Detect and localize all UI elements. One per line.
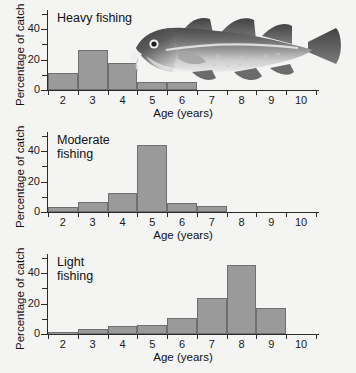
x-axis-tick [48, 212, 49, 217]
x-axis-tick-label: 4 [114, 95, 130, 106]
y-axis-tick-label: 0 [34, 328, 40, 339]
histogram-bar [78, 329, 108, 334]
x-axis-tick [227, 334, 228, 339]
x-axis-tick [316, 334, 317, 339]
y-axis-tick-label: 0 [34, 206, 40, 217]
histogram-bar [48, 332, 78, 334]
x-axis-tick-label: 6 [174, 95, 190, 106]
x-axis-tick [48, 90, 49, 95]
x-axis-tick-label: 4 [114, 339, 130, 350]
x-axis-tick [286, 212, 287, 217]
y-axis-tick-label: 20 [28, 54, 40, 65]
histogram-bar [197, 206, 227, 212]
x-axis-tick-label: 5 [144, 217, 160, 228]
x-axis-tick [227, 90, 228, 95]
x-axis-tick [256, 212, 257, 217]
y-axis-label: Percentage of catch [14, 128, 26, 228]
x-axis-label: Age (years) [47, 107, 319, 119]
x-axis-tick-label: 8 [234, 217, 250, 228]
x-axis-tick [197, 212, 198, 217]
y-axis-tick-major [41, 60, 47, 61]
y-axis-label: Percentage of catch [14, 6, 26, 106]
y-axis-tick-label: 40 [28, 23, 40, 34]
histogram-bar [167, 203, 197, 212]
x-axis-tick [286, 334, 287, 339]
x-axis-tick-label: 10 [293, 339, 309, 350]
x-axis-line [47, 90, 319, 91]
x-axis-tick [78, 212, 79, 217]
x-axis-tick [227, 212, 228, 217]
x-axis-tick-label: 7 [204, 217, 220, 228]
panel-heavy-fishing: Percentage of catch Heavy fishing Age (y… [0, 0, 356, 124]
panel-title: Heavy fishing [57, 11, 132, 25]
x-axis-line [47, 212, 319, 213]
y-axis-tick-label: 40 [28, 267, 40, 278]
x-axis-tick [78, 90, 79, 95]
x-axis-tick-label: 6 [174, 217, 190, 228]
panel-moderate-fishing: Percentage of catch Moderate fishing Age… [0, 122, 356, 246]
x-axis-tick [78, 334, 79, 339]
x-axis-tick [256, 334, 257, 339]
x-axis-tick-label: 7 [204, 95, 220, 106]
x-axis-tick-label: 2 [55, 339, 71, 350]
x-axis-tick-label: 8 [234, 339, 250, 350]
x-axis-tick-label: 7 [204, 339, 220, 350]
x-axis-tick [48, 334, 49, 339]
x-axis-label: Age (years) [47, 351, 319, 363]
histogram-bar [137, 82, 167, 90]
x-axis-tick-label: 3 [85, 95, 101, 106]
y-axis-tick-label: 20 [28, 298, 40, 309]
y-axis-tick-major [41, 151, 47, 152]
y-axis-tick-label: 20 [28, 176, 40, 187]
y-axis-tick-minor [42, 75, 47, 76]
panel-title: Light fishing [57, 255, 93, 283]
y-axis-tick-minor [42, 136, 47, 137]
x-axis-tick [197, 334, 198, 339]
y-axis-tick-major [41, 182, 47, 183]
cod-age-distribution-figure: Percentage of catch Heavy fishing Age (y… [0, 0, 356, 373]
x-axis-tick [108, 334, 109, 339]
x-axis-tick-label: 9 [263, 217, 279, 228]
x-axis-tick [108, 212, 109, 217]
x-axis-tick [316, 90, 317, 95]
x-axis-tick-label: 2 [55, 217, 71, 228]
y-axis-tick-major [41, 90, 47, 91]
histogram-bar [48, 207, 78, 212]
y-axis-tick-minor [42, 14, 47, 15]
histogram-bar [108, 63, 138, 90]
x-axis-tick-label: 8 [234, 95, 250, 106]
x-axis-tick-label: 5 [144, 339, 160, 350]
x-axis-tick-label: 9 [263, 95, 279, 106]
y-axis-tick-label: 40 [28, 145, 40, 156]
histogram-bar [78, 50, 108, 90]
x-axis-tick-label: 10 [293, 217, 309, 228]
panel-title: Moderate fishing [57, 133, 110, 161]
x-axis-tick [137, 212, 138, 217]
histogram-bar [108, 193, 138, 212]
y-axis-label: Percentage of catch [14, 250, 26, 350]
x-axis-label: Age (years) [47, 229, 319, 241]
y-axis-tick-minor [42, 319, 47, 320]
histogram-bar [256, 308, 286, 334]
y-axis-tick-minor [42, 44, 47, 45]
x-axis-tick [167, 90, 168, 95]
x-axis-tick [137, 334, 138, 339]
y-axis-tick-major [41, 334, 47, 335]
x-axis-tick [108, 90, 109, 95]
y-axis-tick-label: 0 [34, 84, 40, 95]
y-axis-tick-major [41, 212, 47, 213]
y-axis-tick-minor [42, 258, 47, 259]
histogram-bar [137, 325, 167, 334]
y-axis-tick-major [41, 273, 47, 274]
y-axis-tick-major [41, 304, 47, 305]
y-axis-tick-major [41, 29, 47, 30]
y-axis-tick-minor [42, 288, 47, 289]
x-axis-tick-label: 3 [85, 217, 101, 228]
x-axis-tick-label: 4 [114, 217, 130, 228]
x-axis-tick-label: 9 [263, 339, 279, 350]
histogram-bar [167, 82, 197, 90]
x-axis-tick [197, 90, 198, 95]
x-axis-tick-label: 10 [293, 95, 309, 106]
panel-light-fishing: Percentage of catch Light fishing Age (y… [0, 244, 356, 368]
x-axis-tick [286, 90, 287, 95]
